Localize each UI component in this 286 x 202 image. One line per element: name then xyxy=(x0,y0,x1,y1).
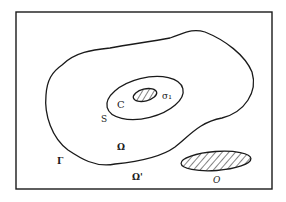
label-outer-domain-omega: Ω xyxy=(117,142,125,152)
label-outer-boundary-gamma: Γ xyxy=(57,156,64,166)
label-exterior-domain-omega-prime: Ω' xyxy=(132,172,143,182)
diagram-canvas: σ₁ C S Ω Γ Ω' O xyxy=(0,0,286,202)
label-inner-region-c: C xyxy=(117,99,125,110)
inner-obstacle-sigma1 xyxy=(132,86,158,103)
label-inner-obstacle: σ₁ xyxy=(162,91,172,101)
label-outer-obstacle-o: O xyxy=(213,175,221,185)
label-inner-surface-s: S xyxy=(101,114,107,124)
outer-obstacle-o xyxy=(180,149,251,173)
